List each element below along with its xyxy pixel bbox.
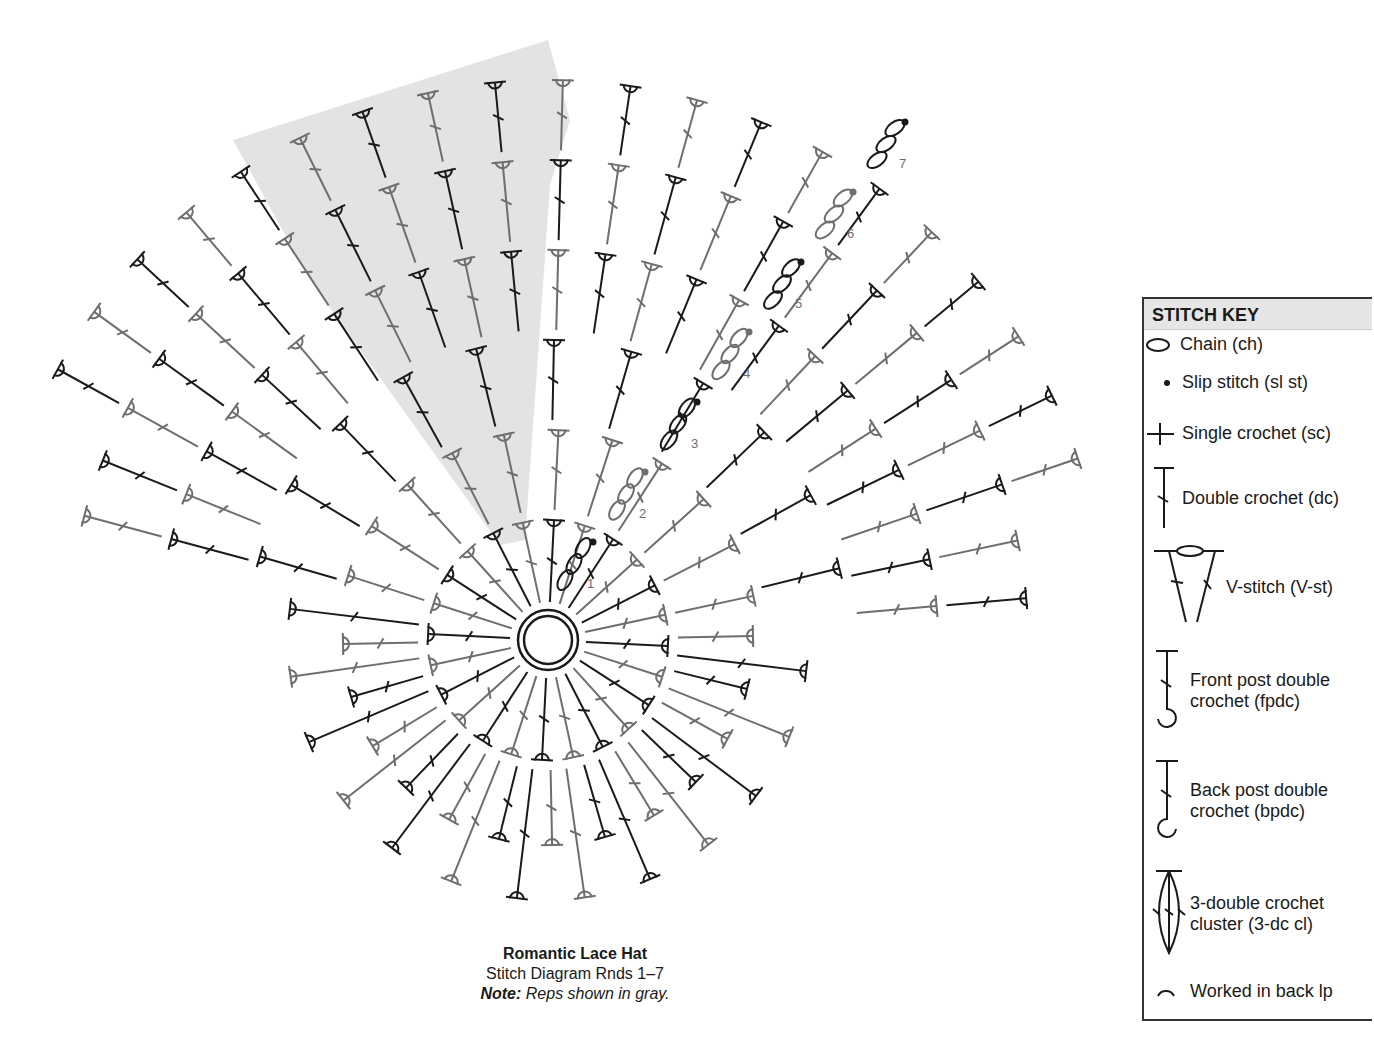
starting-chains: 1234567 — [554, 117, 908, 593]
stitch-key-panel: STITCH KEY Chain (ch) Slip stitch (sl st… — [1142, 297, 1372, 1021]
key-item-cluster: 3-double crochet cluster (3-dc cl) — [1144, 867, 1374, 957]
front-post-dc-icon — [1144, 647, 1184, 737]
cluster-icon — [1144, 867, 1188, 957]
round-number: 3 — [691, 436, 698, 451]
double-crochet-icon — [1144, 464, 1184, 534]
caption-note: Note: Reps shown in gray. — [400, 984, 750, 1004]
v-stitch-icon — [1144, 545, 1224, 625]
diagram-caption: Romantic Lace Hat Stitch Diagram Rnds 1–… — [400, 944, 750, 1004]
key-item-single-crochet: Single crochet (sc) — [1144, 419, 1374, 449]
back-post-dc-icon — [1144, 757, 1184, 847]
stitch-key-header: STITCH KEY — [1144, 299, 1372, 330]
key-item-v-stitch: V-stitch (V-st) — [1144, 545, 1374, 625]
back-loop-icon — [1144, 979, 1184, 1003]
single-crochet-icon — [1144, 419, 1184, 449]
caption-subtitle: Stitch Diagram Rnds 1–7 — [400, 964, 750, 984]
round-number: 5 — [795, 296, 802, 311]
key-item-slip-stitch: Slip stitch (sl st) — [1144, 371, 1374, 395]
chain-icon — [1144, 333, 1184, 357]
center-ring — [518, 610, 578, 670]
caption-title: Romantic Lace Hat — [400, 944, 750, 964]
key-item-front-post-dc: Front post double crochet (fpdc) — [1144, 647, 1374, 737]
key-item-double-crochet: Double crochet (dc) — [1144, 464, 1374, 534]
key-item-chain: Chain (ch) — [1144, 333, 1374, 357]
round-number: 2 — [639, 506, 646, 521]
round-number: 1 — [587, 576, 594, 591]
gray-repeat-shading — [233, 40, 570, 545]
note-label: Note: — [480, 985, 521, 1002]
slip-stitch-icon — [1144, 371, 1184, 395]
round-number: 4 — [743, 366, 750, 381]
stitch-spokes — [52, 79, 1081, 900]
note-text: Reps shown in gray. — [521, 985, 669, 1002]
key-item-back-post-dc: Back post double crochet (bpdc) — [1144, 757, 1374, 847]
key-item-back-loop: Worked in back lp — [1144, 979, 1374, 1003]
round-number: 7 — [899, 156, 906, 171]
round-number: 6 — [847, 226, 854, 241]
